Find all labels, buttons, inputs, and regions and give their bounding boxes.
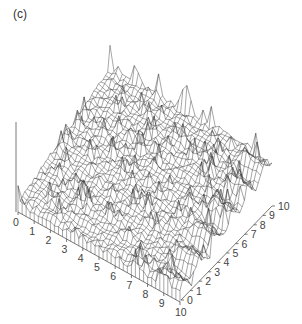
y-tick-label: 2 bbox=[205, 275, 211, 287]
y-tick-label: 4 bbox=[223, 256, 229, 268]
y-tick-label: 10 bbox=[278, 200, 290, 212]
x-tick-label: 6 bbox=[110, 270, 116, 282]
x-tick-label: 1 bbox=[29, 225, 35, 237]
surface-plot: 012345678910 012345678910 bbox=[0, 0, 302, 324]
x-tick-label: 2 bbox=[45, 234, 51, 246]
y-tick-label: 7 bbox=[251, 228, 257, 240]
x-tick-label: 7 bbox=[126, 279, 132, 291]
x-tick-label: 10 bbox=[175, 306, 187, 318]
x-tick-label: 8 bbox=[143, 288, 149, 300]
x-tick-label: 5 bbox=[94, 261, 100, 273]
axes bbox=[16, 122, 275, 305]
y-tick-label: 8 bbox=[260, 219, 266, 231]
y-tick-label: 3 bbox=[214, 266, 220, 278]
y-tick-label: 0 bbox=[187, 294, 193, 306]
x-tick-label: 9 bbox=[159, 297, 165, 309]
x-axis-ticks: 012345678910 bbox=[13, 216, 187, 318]
x-tick-label: 0 bbox=[13, 216, 19, 228]
y-tick-label: 9 bbox=[269, 209, 275, 221]
x-tick-label: 4 bbox=[78, 252, 84, 264]
y-tick-label: 5 bbox=[233, 247, 239, 259]
wireframe-mesh bbox=[18, 45, 272, 302]
y-tick-label: 1 bbox=[196, 285, 202, 297]
x-tick-label: 3 bbox=[62, 243, 68, 255]
y-tick-label: 6 bbox=[242, 238, 248, 250]
